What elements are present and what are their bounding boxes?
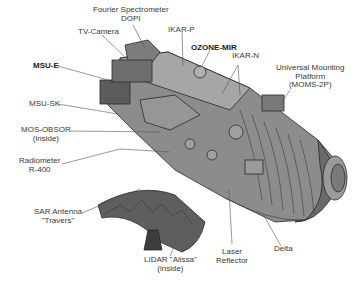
label-line: IKAR-P: [168, 26, 195, 35]
label-line: OZONE-MIR: [191, 44, 237, 53]
label-fourier-spectrometer: Fourier Spectrometer DOPI: [93, 6, 169, 23]
label-ozone-mir: OZONE-MIR: [191, 44, 237, 53]
label-line: R-400: [19, 166, 60, 175]
label-line: IKAR-N: [232, 52, 259, 61]
label-line: (inside): [144, 265, 197, 274]
label-line: (MOMS-2P): [276, 81, 344, 90]
label-tv-camera: TV-Camera: [78, 28, 119, 37]
label-radiometer: Radiometer R-400: [19, 157, 60, 174]
label-laser-reflector: Laser Reflector: [216, 248, 248, 265]
label-line: Reflector: [216, 257, 248, 266]
label-line: (inside): [21, 135, 71, 144]
spacecraft-diagram: Fourier Spectrometer DOPI TV-Camera IKAR…: [0, 0, 355, 282]
label-line: TV-Camera: [78, 28, 119, 37]
label-sar-antenna: SAR Antenna "Travers": [34, 208, 82, 225]
label-ikar-p: IKAR-P: [168, 26, 195, 35]
label-line: DOPI: [93, 15, 169, 24]
label-line: "Travers": [34, 217, 82, 226]
label-line: MSU-E: [33, 62, 59, 71]
label-delta: Delta: [274, 245, 293, 254]
label-msu-e: MSU-E: [33, 62, 59, 71]
label-universal-mounting-platform: Universal Mounting Platform (MOMS-2P): [276, 64, 344, 90]
label-line: MSU-SK: [29, 100, 60, 109]
label-msu-sk: MSU-SK: [29, 100, 60, 109]
label-lidar-alissa: LIDAR "Alissa" (inside): [144, 256, 197, 273]
label-mos-obsor: MOS-OBSOR (inside): [21, 126, 71, 143]
label-ikar-n: IKAR-N: [232, 52, 259, 61]
label-line: Delta: [274, 245, 293, 254]
